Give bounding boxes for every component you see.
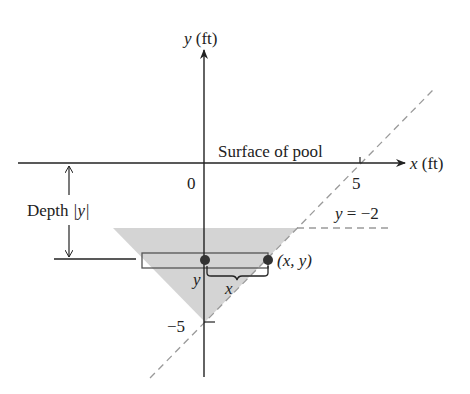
- y-axis-label: y (ft): [182, 29, 218, 48]
- surface-label: Surface of pool: [218, 142, 323, 161]
- pool-cross-section-diagram: y (ft) x (ft) Surface of pool 0 5 −5 Dep…: [0, 0, 470, 394]
- point-label: (x, y): [277, 251, 312, 270]
- point-on-axis: [200, 255, 210, 265]
- pool-shaded-region: [113, 228, 297, 322]
- y-tick-label: −5: [167, 317, 185, 336]
- line-equation-label: y = −2: [333, 204, 379, 223]
- x-tick-label: 5: [352, 174, 361, 193]
- x-axis-label: x (ft): [409, 154, 444, 173]
- point-xy: [263, 255, 273, 265]
- strip-y-label: y: [191, 270, 201, 289]
- brace-x-label: x: [224, 279, 233, 298]
- origin-label: 0: [187, 174, 196, 193]
- depth-label: Depth |y|: [27, 201, 90, 220]
